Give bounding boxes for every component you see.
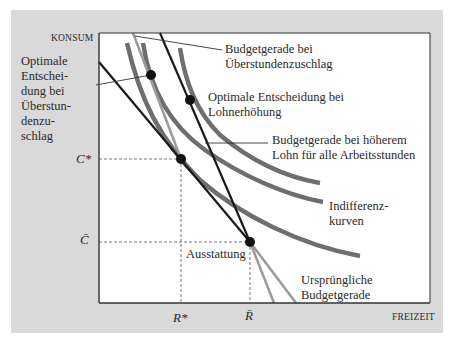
label-indifference-curves: Indifferenz- kurven <box>329 199 388 229</box>
label-overtime-budget: Budgetgerade bei Überstundenzuschlag <box>225 42 333 72</box>
y-axis-label: KONSUM <box>51 33 93 43</box>
label-endowment: Ausstattung <box>186 247 246 262</box>
label-optimal-raise: Optimale Entscheidung bei Lohnerhöhung <box>208 90 344 120</box>
endowment-point <box>245 237 255 247</box>
raise-optimum-point <box>185 95 195 105</box>
x-axis-label: FREIZEIT <box>392 312 435 322</box>
x-tick-r-star: R* <box>173 310 187 326</box>
y-tick-c-bar: C̄ <box>80 232 89 248</box>
x-tick-r-bar: R̄ <box>245 308 253 324</box>
original-optimum-point <box>176 154 186 164</box>
label-optimal-overtime: Optimale Entschei- dung bei Überstun- de… <box>21 54 71 144</box>
overtime-optimum-point <box>146 70 156 80</box>
label-original-budget: Ursprüngliche Budgetgerade <box>301 273 373 303</box>
label-higher-wage-budget: Budgetgerade bei höherem Lohn für alle A… <box>272 133 415 163</box>
y-tick-c-star: C* <box>76 151 91 167</box>
